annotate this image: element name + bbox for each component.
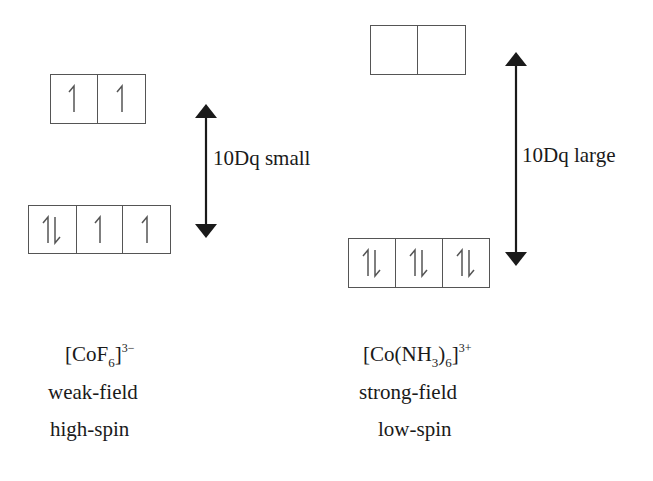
left-eg-orbital-set xyxy=(50,74,146,124)
left-eg-orbital-1 xyxy=(51,75,98,123)
right-t2g-orbital-set xyxy=(348,238,490,288)
left-t2g-orbital-set xyxy=(28,205,171,254)
left-gap-label: 10Dq small xyxy=(213,148,310,169)
formula-subscript-1: 3 xyxy=(432,355,439,370)
right-gap-label: 10Dq large xyxy=(522,145,616,166)
right-complex-formula: [Co(NH3)6]3+ xyxy=(363,344,472,365)
formula-subscript-2: 6 xyxy=(445,355,452,370)
spin-up-icon xyxy=(140,215,154,245)
spin-up-icon xyxy=(67,84,81,114)
right-eg-orbital-1 xyxy=(371,26,418,74)
right-t2g-orbital-2 xyxy=(396,239,442,287)
right-eg-orbital-2 xyxy=(418,26,465,74)
right-t2g-orbital-1 xyxy=(349,239,396,287)
formula-close: ] xyxy=(115,342,122,366)
formula-prefix: [CoF xyxy=(65,342,108,366)
left-spin-label: high-spin xyxy=(50,419,129,440)
spin-up-icon xyxy=(115,84,129,114)
spin-up-icon xyxy=(93,215,107,245)
right-spin-label: low-spin xyxy=(378,419,452,440)
left-eg-orbital-2 xyxy=(98,75,145,123)
right-eg-orbital-set xyxy=(370,25,466,75)
spin-pair-icon xyxy=(42,215,62,245)
left-t2g-orbital-2 xyxy=(77,206,124,253)
formula-charge: 3− xyxy=(122,341,135,355)
left-field-label: weak-field xyxy=(48,382,138,403)
right-t2g-orbital-3 xyxy=(443,239,489,287)
spin-pair-icon xyxy=(456,248,476,278)
spin-pair-icon xyxy=(409,248,429,278)
formula-subscript: 6 xyxy=(108,355,115,370)
spin-pair-icon xyxy=(362,248,382,278)
right-field-label: strong-field xyxy=(359,382,457,403)
left-t2g-orbital-3 xyxy=(123,206,170,253)
formula-close: ] xyxy=(452,342,459,366)
left-complex-formula: [CoF6]3− xyxy=(65,344,134,365)
formula-charge: 3+ xyxy=(459,341,472,355)
double-headed-arrow-icon xyxy=(193,104,219,238)
left-t2g-orbital-1 xyxy=(29,206,77,253)
formula-prefix: [Co(NH xyxy=(363,342,432,366)
